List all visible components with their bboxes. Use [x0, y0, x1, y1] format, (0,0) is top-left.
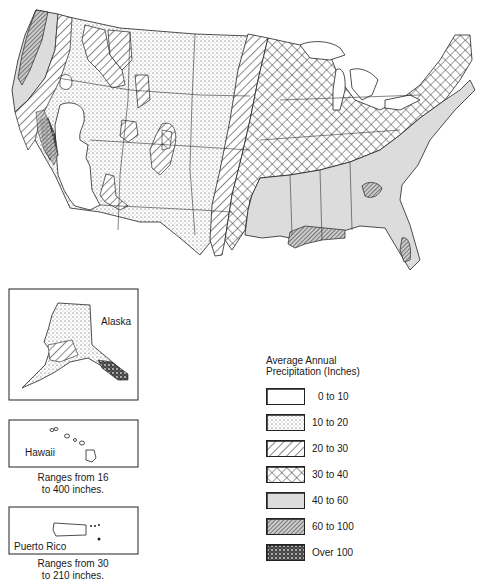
swatch-cross-hatch-icon [266, 466, 305, 483]
legend-item-30-40: 30 to 40 [266, 461, 466, 487]
puerto-rico-caption-line1: Ranges from 30 [8, 558, 138, 570]
legend-item-60-100: 60 to 100 [266, 513, 466, 539]
region-60-100-gulf [288, 226, 345, 248]
puerto-rico-label: Puerto Rico [14, 541, 66, 552]
swatch-stipple-icon [266, 414, 305, 431]
hawaii-label: Hawaii [25, 447, 55, 458]
puerto-rico-caption: Ranges from 30 to 210 inches. [8, 558, 138, 581]
legend-item-40-60: 40 to 60 [266, 487, 466, 513]
legend-item-over-100: Over 100 [266, 539, 466, 565]
legend-title: Average Annual Precipitation (Inches) [266, 355, 466, 377]
puerto-rico-shape [53, 523, 86, 536]
puerto-rico-caption-line2: to 210 inches. [8, 570, 138, 581]
alaska-label: Alaska [101, 316, 131, 327]
hawaii-caption-line1: Ranges from 16 [8, 472, 138, 484]
legend: Average Annual Precipitation (Inches) 0 … [266, 355, 466, 565]
swatch-dense-hatch-icon [266, 518, 305, 535]
swatch-dark-stipple-icon [266, 544, 305, 561]
legend-item-10-20: 10 to 20 [266, 409, 466, 435]
swatch-light-gray-icon [266, 492, 305, 509]
swatch-blank-icon [266, 388, 305, 405]
region-0-10-nv-lobe [60, 75, 72, 90]
swatch-diagonal-hatch-icon [266, 440, 305, 457]
legend-item-20-30: 20 to 30 [266, 435, 466, 461]
legend-item-0-10: 0 to 10 [266, 383, 466, 409]
hawaii-inset-frame [9, 420, 138, 467]
hawaii-caption-line2: to 400 inches. [8, 484, 138, 496]
hawaii-caption: Ranges from 16 to 400 inches. [8, 472, 138, 496]
